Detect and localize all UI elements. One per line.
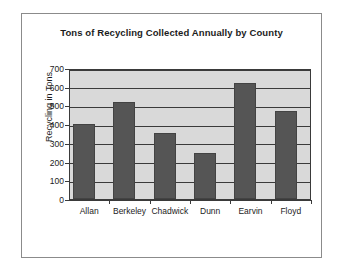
y-tick-mark bbox=[65, 181, 69, 182]
chart-frame: Tons of Recycling Collected Annually by … bbox=[21, 13, 322, 258]
bar-berkeley bbox=[113, 102, 135, 199]
y-tick-mark bbox=[65, 106, 69, 107]
x-tick-mark bbox=[109, 200, 110, 204]
gridline bbox=[70, 70, 310, 71]
plot-area bbox=[69, 69, 311, 200]
x-tick-label: Earvin bbox=[238, 206, 262, 216]
y-tick-label: 700 bbox=[30, 64, 64, 74]
y-tick-label: 200 bbox=[30, 158, 64, 168]
x-tick-label: Berkeley bbox=[113, 206, 146, 216]
y-tick-label: 500 bbox=[30, 101, 64, 111]
y-tick-mark bbox=[65, 200, 69, 201]
y-tick-mark bbox=[65, 163, 69, 164]
gridline bbox=[70, 107, 310, 108]
y-tick-label: 100 bbox=[30, 176, 64, 186]
y-tick-label: 600 bbox=[30, 83, 64, 93]
y-tick-mark bbox=[65, 125, 69, 126]
x-tick-label: Allan bbox=[80, 206, 99, 216]
x-tick-mark bbox=[271, 200, 272, 204]
y-tick-mark bbox=[65, 88, 69, 89]
chart-title: Tons of Recycling Collected Annually by … bbox=[22, 27, 321, 38]
y-tick-mark bbox=[65, 144, 69, 145]
x-tick-mark bbox=[190, 200, 191, 204]
y-tick-mark bbox=[65, 69, 69, 70]
x-tick-mark bbox=[311, 200, 312, 204]
y-tick-label: 0 bbox=[30, 195, 64, 205]
bar-earvin bbox=[234, 83, 256, 199]
y-tick-label: 400 bbox=[30, 120, 64, 130]
bar-floyd bbox=[275, 111, 297, 199]
x-tick-label: Dunn bbox=[200, 206, 220, 216]
bar-chadwick bbox=[154, 133, 176, 199]
bar-allan bbox=[73, 124, 95, 199]
gridline bbox=[70, 88, 310, 89]
x-tick-label: Floyd bbox=[280, 206, 301, 216]
x-tick-mark bbox=[230, 200, 231, 204]
x-tick-label: Chadwick bbox=[151, 206, 188, 216]
x-tick-mark bbox=[150, 200, 151, 204]
bar-dunn bbox=[194, 153, 216, 199]
y-tick-label: 300 bbox=[30, 139, 64, 149]
